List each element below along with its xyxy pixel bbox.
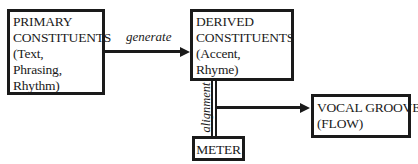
generate-arrow-line [105, 50, 181, 53]
node-label-line: Rhyme) [196, 62, 288, 78]
node-label-line: VOCAL GROOVE [317, 100, 405, 116]
node-label-line: CONSTITUENTS [196, 30, 288, 46]
node-meter: METER [192, 136, 245, 161]
node-label-line: DERIVED [196, 14, 288, 30]
node-label-line: (Accent, [196, 46, 288, 62]
generate-arrowhead-icon [180, 47, 190, 57]
node-derived-constituents: DERIVED CONSTITUENTS (Accent, Rhyme) [190, 9, 294, 81]
node-label-line: (Text, [13, 46, 99, 62]
node-primary-constituents: PRIMARY CONSTITUENTS (Text, Phrasing, Rh… [7, 9, 105, 95]
node-label-line: CONSTITUENTS [13, 30, 99, 46]
node-label-line: PRIMARY [13, 14, 99, 30]
node-label-line: METER [195, 142, 242, 158]
edge-label-alignment: alignment [199, 80, 214, 136]
node-label-line: Phrasing, [13, 62, 99, 78]
edge-label-generate: generate [126, 29, 171, 45]
node-vocal-groove: VOCAL GROOVE (FLOW) [311, 94, 411, 138]
node-label-line: (FLOW) [317, 116, 405, 132]
flow-arrowhead-icon [300, 103, 310, 113]
node-label-line: Rhythm) [13, 78, 99, 94]
flow-arrow-line [217, 106, 301, 109]
